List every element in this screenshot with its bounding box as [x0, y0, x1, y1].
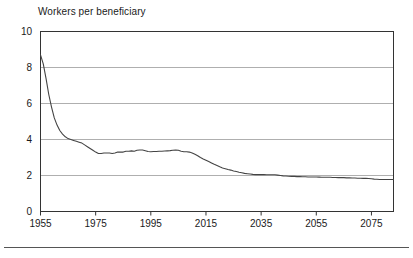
x-tick-label: 1955: [21, 219, 61, 229]
x-tick-label: 2055: [296, 219, 336, 229]
x-tick-label: 1995: [131, 219, 171, 229]
x-tick-label: 2075: [351, 219, 391, 229]
y-tick-label: 4: [8, 135, 32, 145]
y-tick-label: 6: [8, 99, 32, 109]
y-tick-label: 10: [8, 27, 32, 37]
chart-figure: Workers per beneficiary 0246810 19551975…: [0, 0, 413, 258]
gridlines: [41, 68, 394, 176]
y-tick-label: 0: [8, 207, 32, 217]
y-tick-label: 2: [8, 171, 32, 181]
plot-frame: [41, 32, 394, 212]
x-tick-label: 2035: [241, 219, 281, 229]
data-series-line: [41, 55, 394, 180]
footer-divider: [4, 247, 409, 248]
x-tick-label: 2015: [186, 219, 226, 229]
x-tick-label: 1975: [76, 219, 116, 229]
x-axis-ticks: [41, 212, 372, 216]
y-tick-label: 8: [8, 63, 32, 73]
